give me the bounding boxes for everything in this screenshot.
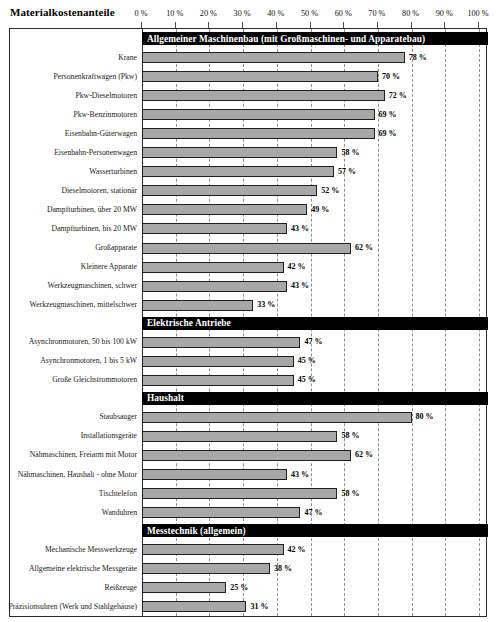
bar (142, 544, 284, 555)
bar-value-label: 72 % (389, 92, 407, 100)
x-axis-tick-label: 90 % (436, 9, 453, 18)
bar-value-label: 62 % (355, 244, 373, 252)
bar-row: Werkzeugmaschinen, mittelschwer33 % (10, 296, 486, 315)
bar-row: Nähmaschinen, Haushalt - ohne Motor43 % (10, 465, 486, 484)
category-label: Eisenbahn-Personenwagen (54, 149, 137, 157)
bar-value-label: 80 % (416, 413, 434, 421)
bar-row: Tischtelefon58 % (10, 484, 486, 503)
bar (142, 601, 246, 612)
x-axis-tick-label: 60 % (335, 9, 352, 18)
category-label: Tischtelefon (99, 490, 137, 498)
bar (142, 128, 375, 139)
bar-row: Asynchronmotoren, 1 bis 5 kW45 % (10, 352, 486, 371)
bar-row: Werkzeugmaschinen, schwer43 % (10, 277, 486, 296)
bar-row: Allgemeine elektrische Messgeräte38 % (10, 559, 486, 578)
x-axis-tick-label: 80 % (402, 9, 419, 18)
bar-row: Asynchronmotoren, 50 bis 100 kW47 % (10, 333, 486, 352)
bar-value-label: 52 % (321, 187, 339, 195)
bar-row: Präzisionsuhren (Werk und Stahlgehäuse)3… (10, 597, 486, 616)
chart-header: Materialkostenanteile 0 %10 %20 %30 %40 … (0, 0, 496, 28)
chart-frame: Allgemeiner Maschinenbau (mit Großmaschi… (9, 28, 487, 617)
category-label: Werkzeugmaschinen, schwer (48, 282, 137, 290)
x-axis-tick-label: 30 % (234, 9, 251, 18)
bar-value-label: 45 % (298, 357, 316, 365)
bar-value-label: 70 % (382, 73, 400, 81)
category-label: Asynchronmotoren, 50 bis 100 kW (29, 338, 137, 346)
bar-value-label: 31 % (250, 603, 268, 611)
bar-value-label: 42 % (288, 263, 306, 271)
bar-value-label: 43 % (291, 282, 309, 290)
category-label: Große Gleichstrommotoren (52, 376, 137, 384)
x-axis-tick-label: 20 % (200, 9, 217, 18)
section-header-label: Elektrische Antriebe (143, 318, 231, 328)
bar (142, 71, 378, 82)
bar-value-label: 45 % (298, 376, 316, 384)
bar (142, 356, 294, 367)
bar-value-label: 25 % (230, 584, 248, 592)
bar (142, 243, 351, 254)
bar-row: Personenkraftwagen (Pkw)70 % (10, 67, 486, 86)
x-axis-tick-label: 70 % (368, 9, 385, 18)
category-label: Wanduhren (102, 509, 137, 517)
bar-value-label: 58 % (341, 149, 359, 157)
category-label: Mechanische Messwerkzeuge (45, 546, 137, 554)
bar-value-label: 43 % (291, 471, 309, 479)
bar (142, 375, 294, 386)
bar-value-label: 49 % (311, 206, 329, 214)
bar-value-label: 47 % (304, 509, 322, 517)
category-label: Nähmaschinen, Haushalt - ohne Motor (18, 471, 137, 479)
bar (142, 300, 253, 311)
category-label: Personenkraftwagen (Pkw) (54, 73, 137, 81)
bar-row: Eisenbahn-Personenwagen58 % (10, 143, 486, 162)
bar (142, 223, 287, 234)
category-label: Werkzeugmaschinen, mittelschwer (30, 301, 137, 309)
bar-row: Pkw-Dieselmotoren72 % (10, 86, 486, 105)
x-axis-tick-labels: 0 %10 %20 %30 %40 %50 %60 %70 %80 %90 %1… (0, 0, 496, 28)
category-label: Präzisionsuhren (Werk und Stahlgehäuse) (8, 603, 137, 611)
chart-page: Materialkostenanteile 0 %10 %20 %30 %40 … (0, 0, 496, 622)
category-label: Allgemeine elektrische Messgeräte (29, 565, 137, 573)
bar-row: Staubsauger80 % (10, 408, 486, 427)
bar (142, 412, 412, 423)
category-label: Krane (118, 54, 137, 62)
category-label: Asynchronmotoren, 1 bis 5 kW (40, 357, 137, 365)
bar (142, 262, 284, 273)
section-header: Haushalt (142, 392, 488, 405)
bar-value-label: 57 % (338, 168, 356, 176)
section-header-label: Haushalt (143, 393, 184, 403)
bar-row: Nähmaschinen, Freiarm mit Motor62 % (10, 446, 486, 465)
bar-row: Pkw-Benzinmotoren69 % (10, 105, 486, 124)
bar (142, 431, 337, 442)
bar (142, 582, 226, 593)
category-label: Kleinere Apparate (81, 263, 137, 271)
bar (142, 450, 351, 461)
chart-rows: Allgemeiner Maschinenbau (mit Großmaschi… (10, 29, 486, 616)
x-axis-tick-label: 40 % (267, 9, 284, 18)
bar (142, 90, 385, 101)
category-label: Staubsauger (99, 413, 137, 421)
category-label: Eisenbahn-Güterwagen (65, 130, 137, 138)
bar (142, 281, 287, 292)
bar-row: Wanduhren47 % (10, 503, 486, 522)
bar-value-label: 38 % (274, 565, 292, 573)
bar-value-label: 58 % (341, 432, 359, 440)
category-label: Großapparate (95, 244, 137, 252)
category-label: Pkw-Benzinmotoren (73, 111, 137, 119)
bar (142, 563, 270, 574)
bar-value-label: 58 % (341, 490, 359, 498)
bar-row: Wasserturbinen57 % (10, 162, 486, 181)
bar-value-label: 78 % (409, 54, 427, 62)
bar-row: Große Gleichstrommotoren45 % (10, 371, 486, 390)
x-axis-tick-label: 0 % (135, 9, 148, 18)
bar-value-label: 69 % (379, 111, 397, 119)
category-label: Installationsgeräte (81, 432, 137, 440)
bar-row: Dampfturbinen, bis 20 MW43 % (10, 219, 486, 238)
bar-value-label: 62 % (355, 451, 373, 459)
x-axis-tick-label: 50 % (301, 9, 318, 18)
bar (142, 166, 334, 177)
bar-row: Eisenbahn-Güterwagen69 % (10, 124, 486, 143)
category-label: Wasserturbinen (89, 168, 137, 176)
section-header-label: Messtechnik (allgemein) (143, 526, 246, 536)
bar (142, 147, 337, 158)
bar (142, 488, 337, 499)
